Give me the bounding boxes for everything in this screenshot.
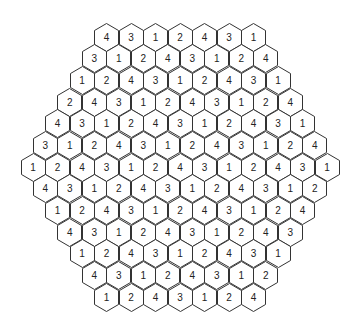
hex-value: 2 <box>217 283 242 312</box>
hex-value: 4 <box>241 283 266 312</box>
hex-value: 1 <box>94 283 119 312</box>
hex-board: 4312431312431241243124312431243124431243… <box>0 0 361 331</box>
hex-cell[interactable]: 4 <box>241 283 266 312</box>
hex-cell[interactable]: 1 <box>94 283 119 312</box>
hex-cell[interactable]: 2 <box>217 283 242 312</box>
hex-cell[interactable]: 3 <box>168 283 193 312</box>
hex-value: 4 <box>143 283 168 312</box>
hex-value: 3 <box>168 283 193 312</box>
hex-value: 1 <box>192 283 217 312</box>
hex-value: 2 <box>119 283 144 312</box>
hex-cell[interactable]: 4 <box>143 283 168 312</box>
hex-cell[interactable]: 2 <box>119 283 144 312</box>
hex-cell[interactable]: 1 <box>192 283 217 312</box>
